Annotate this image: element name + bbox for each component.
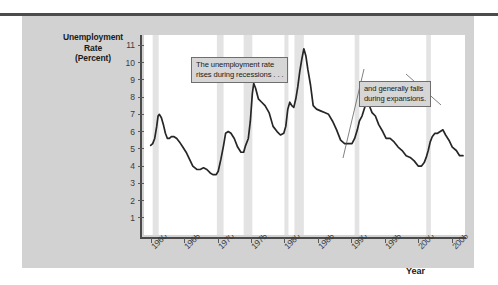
y-axis-tick-label: 11: [126, 40, 138, 50]
y-axis-tick: 7: [115, 109, 144, 119]
annotation-expansions-line-1: and generally falls: [364, 84, 426, 94]
y-axis-tick-label: 9: [130, 75, 138, 85]
annotation-expansions-line-2: during expansions.: [364, 94, 426, 104]
y-axis-tick-label: 1: [130, 213, 138, 223]
annotation-recessions-note: The unemployment rate rises during reces…: [191, 57, 288, 83]
y-axis-tick-label: 3: [130, 178, 138, 188]
y-axis-tick: 5: [115, 144, 144, 154]
y-axis-tick: 9: [115, 75, 144, 85]
y-axis-tick-label: 10: [126, 58, 138, 68]
y-axis-tick: 10: [115, 58, 144, 68]
y-axis-tick-label: 4: [130, 161, 138, 171]
y-axis-tick: 3: [115, 178, 144, 188]
annotation-recessions-line-2: rises during recessions . . .: [196, 70, 283, 80]
y-axis-tick: 6: [115, 127, 144, 137]
annotation-recessions-line-1: The unemployment rate: [196, 60, 283, 70]
y-axis-tick-label: 5: [130, 144, 138, 154]
y-axis-tick: 8: [115, 92, 144, 102]
y-axis-tick-label: 8: [130, 92, 138, 102]
annotation-expansions-note: and generally falls during expansions.: [359, 81, 431, 107]
y-axis-tick-label: 2: [130, 196, 138, 206]
x-axis-title: Year: [406, 266, 425, 276]
chart-panel: Unemployment Rate (Percent) 123456789101…: [22, 16, 474, 268]
y-axis-tick: 11: [115, 40, 144, 50]
y-axis-tick: 1: [115, 213, 144, 223]
y-axis-tick-label: 6: [130, 127, 138, 137]
y-axis-tick: 4: [115, 161, 144, 171]
chart-figure: Unemployment Rate (Percent) 123456789101…: [0, 0, 498, 285]
y-axis-tick: 2: [115, 196, 144, 206]
y-axis-tick-label: 7: [130, 109, 138, 119]
